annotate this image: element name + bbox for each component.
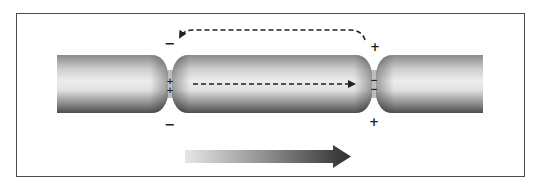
- node2-top-sign: +: [370, 40, 380, 54]
- propagation-direction-arrow: [185, 145, 351, 168]
- node1-bottom-sign: −: [165, 117, 176, 132]
- external-current-arrow: [180, 30, 365, 40]
- saltatory-conduction-diagram: − − + + + + − −: [0, 0, 543, 189]
- node1-inside-sign-2: +: [166, 85, 174, 95]
- internode-right: [375, 55, 483, 113]
- node2-bottom-sign: +: [369, 115, 379, 129]
- node1-top-sign: −: [165, 36, 176, 51]
- internode-left: [57, 55, 169, 113]
- node2-inside-sign-2: −: [370, 84, 378, 94]
